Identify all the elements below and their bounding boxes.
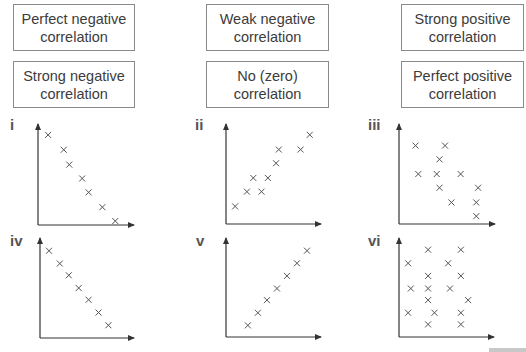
data-point-x-marker (105, 322, 111, 328)
data-point-x-marker (458, 273, 464, 279)
data-point-x-marker (96, 310, 102, 316)
data-point-x-marker (408, 286, 414, 292)
data-point-x-marker (61, 147, 67, 153)
data-point-x-marker (458, 310, 464, 316)
data-point-x-marker (448, 199, 454, 205)
data-point-x-marker (232, 203, 238, 209)
data-point-x-marker (425, 247, 431, 253)
data-point-x-marker (458, 247, 464, 253)
data-point-x-marker (265, 175, 271, 181)
data-point-x-marker (76, 285, 82, 291)
data-point-x-marker (264, 297, 270, 303)
data-point-x-marker (413, 143, 419, 149)
data-point-x-marker (425, 321, 431, 327)
scatter-plot-i (38, 124, 134, 225)
data-point-x-marker (255, 310, 261, 316)
data-point-x-marker (79, 175, 85, 181)
scatter-plot-iv (40, 238, 134, 338)
data-point-x-marker (425, 286, 431, 292)
data-point-x-marker (112, 218, 118, 224)
data-point-x-marker (436, 185, 442, 191)
data-point-x-marker (465, 297, 471, 303)
data-point-x-marker (458, 171, 464, 177)
data-point-x-marker (405, 260, 411, 266)
data-point-x-marker (294, 260, 300, 266)
data-point-x-marker (307, 132, 313, 138)
data-point-x-marker (244, 189, 250, 195)
data-point-x-marker (86, 189, 92, 195)
data-point-x-marker (276, 147, 282, 153)
data-point-x-marker (458, 321, 464, 327)
data-point-x-marker (46, 248, 52, 254)
data-point-x-marker (66, 162, 72, 168)
data-point-x-marker (57, 261, 63, 267)
data-point-x-marker (442, 143, 448, 149)
data-point-x-marker (445, 260, 451, 266)
data-point-x-marker (434, 171, 440, 177)
scatter-plot-iii (399, 124, 495, 224)
scatter-graphs (0, 0, 526, 352)
data-point-x-marker (425, 273, 431, 279)
data-point-x-marker (475, 185, 481, 191)
data-point-x-marker (415, 171, 421, 177)
data-point-x-marker (298, 147, 304, 153)
data-point-x-marker (284, 273, 290, 279)
data-point-x-marker (431, 310, 437, 316)
data-point-x-marker (66, 272, 72, 278)
scatter-plot-ii (226, 124, 321, 224)
scatter-plot-vi (399, 238, 494, 337)
data-point-x-marker (45, 132, 51, 138)
data-point-x-marker (304, 248, 310, 254)
data-point-x-marker (250, 175, 256, 181)
data-point-x-marker (405, 310, 411, 316)
data-point-x-marker (86, 297, 92, 303)
data-point-x-marker (273, 160, 279, 166)
data-point-x-marker (99, 204, 105, 210)
data-point-x-marker (425, 297, 431, 303)
data-point-x-marker (473, 213, 479, 219)
data-point-x-marker (447, 286, 453, 292)
data-point-x-marker (258, 189, 264, 195)
data-point-x-marker (436, 156, 442, 162)
scatter-plot-v (226, 238, 321, 337)
footer-bar (489, 348, 526, 352)
data-point-x-marker (473, 199, 479, 205)
data-point-x-marker (274, 286, 280, 292)
data-point-x-marker (245, 322, 251, 328)
